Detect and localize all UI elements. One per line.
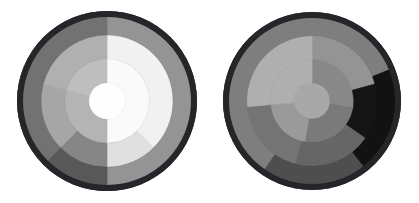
polar-diagrams-svg (0, 0, 419, 203)
right-polar-diagram[interactable] (223, 12, 401, 190)
figure-canvas (0, 0, 419, 203)
left-polar-diagram[interactable] (17, 11, 197, 191)
